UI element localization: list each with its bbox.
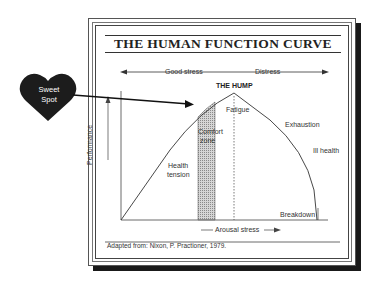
- comfort-zone-label-2: zone: [200, 137, 215, 145]
- exhaustion-label: Exhaustion: [285, 121, 320, 129]
- ill-health-label: Ill health: [313, 147, 339, 155]
- health-tension-label-1: Health: [168, 162, 188, 170]
- source-caption: Adapted from: Nixon, P. Practioner, 1979…: [107, 242, 226, 249]
- performance-axis-label: Performance: [86, 125, 93, 165]
- performance-arrow: [106, 96, 111, 160]
- breakdown-label: Breakdown: [280, 211, 315, 219]
- sweet-spot-label: Sweet Spot: [28, 85, 70, 105]
- hump-label: THE HUMP: [216, 82, 253, 90]
- sweet-spot-line2: Spot: [28, 95, 70, 105]
- arousal-stress-label: Arousal stress: [215, 226, 259, 234]
- fatigue-label: Fatigue: [226, 106, 249, 114]
- sweet-spot-pointer: [73, 95, 194, 108]
- stress-range-arrow: [120, 70, 329, 75]
- health-tension-label-2: tension: [167, 171, 190, 179]
- good-stress-label: Good stress: [165, 68, 203, 76]
- distress-label: Distress: [255, 68, 280, 76]
- sweet-spot-line1: Sweet: [28, 85, 70, 95]
- human-function-curve: [121, 93, 317, 220]
- comfort-zone-label-1: Comfort: [198, 128, 223, 136]
- comfort-zone-band: [198, 102, 215, 220]
